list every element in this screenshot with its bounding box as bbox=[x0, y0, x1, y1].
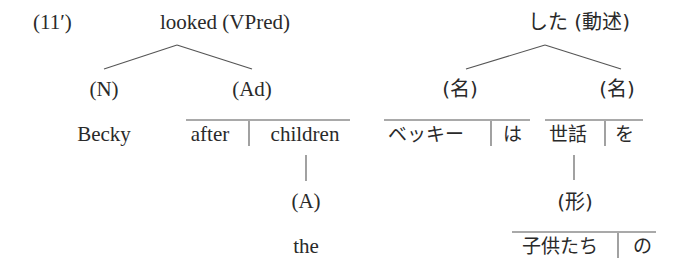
word-kodomotachi: 子供たち bbox=[522, 234, 598, 258]
branch-line-doujutsu-mei1 bbox=[466, 45, 545, 69]
branch-line-vpred-ad bbox=[177, 45, 252, 69]
branch-line-doujutsu-mei2 bbox=[545, 45, 621, 69]
branch-line-vpred-n bbox=[104, 45, 177, 69]
word-no: の bbox=[633, 234, 652, 258]
word-becky-ja: ベッキー bbox=[388, 122, 464, 146]
word-sewa: 世話 bbox=[549, 122, 587, 146]
japanese-node-mei-2: (名) bbox=[599, 77, 635, 101]
example-label: (11′) bbox=[33, 10, 72, 34]
japanese-node-kei: (形) bbox=[557, 190, 593, 214]
word-the: the bbox=[293, 234, 319, 258]
word-children: children bbox=[271, 122, 340, 146]
english-node-n: (N) bbox=[89, 77, 118, 101]
english-root-node: looked (VPred) bbox=[160, 10, 290, 34]
word-after: after bbox=[191, 122, 229, 146]
word-wo: を bbox=[615, 122, 634, 146]
word-becky: Becky bbox=[77, 122, 131, 146]
english-node-ad: (Ad) bbox=[232, 77, 272, 101]
japanese-node-mei-1: (名) bbox=[442, 77, 478, 101]
english-node-a: (A) bbox=[291, 189, 320, 213]
japanese-root-node: した (動述) bbox=[528, 10, 630, 34]
word-wa: は bbox=[503, 122, 522, 146]
